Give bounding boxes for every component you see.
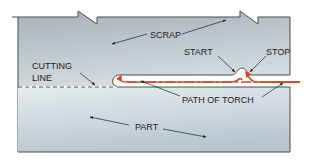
- label-part: PART: [135, 122, 158, 132]
- label-scrap: SCRAP: [150, 30, 181, 40]
- diagram-canvas: [0, 0, 316, 166]
- label-start: START: [184, 47, 213, 57]
- label-path-of-torch: PATH OF TORCH: [182, 95, 254, 105]
- torch-path-left: [126, 79, 242, 82]
- label-stop: STOP: [266, 47, 290, 57]
- torch-path-hook: [120, 76, 126, 82]
- label-line: LINE: [32, 73, 52, 83]
- label-cutting: CUTTING: [32, 61, 72, 71]
